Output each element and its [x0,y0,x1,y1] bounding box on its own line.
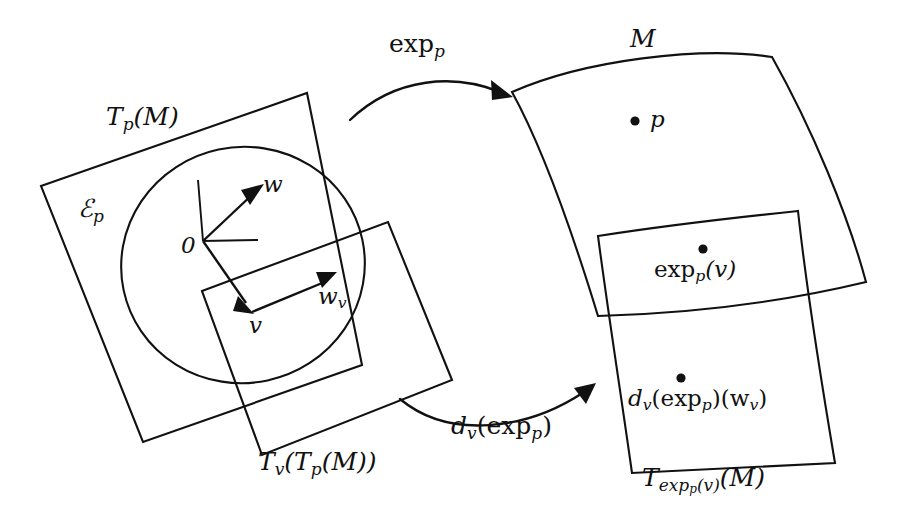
imgvec-mid2: )(w [712,385,750,411]
differential-arrowhead [574,383,596,404]
tpe-sub-tail: (v) [697,475,720,495]
tangent-plane-exp-shape [598,211,835,473]
imgvec-sub3: v [750,395,759,414]
imgvec-base: d [628,385,643,411]
epsilon-p-base: ℰ [78,194,93,223]
label-point-p: p [650,108,665,131]
exp-map-arrow-shaft [350,81,500,120]
tot-mid: (T [284,447,310,476]
tot-base: T [258,447,275,476]
tpe-sub-exp: exp [659,475,690,495]
axis-vertical [198,180,203,241]
imgvec-mid: (exp [652,385,702,411]
axis-horizontal [203,240,258,241]
point-exp-p-v-dot [698,244,707,253]
diff-sub2: p [531,423,542,443]
vector-v-shaft [203,241,246,303]
diff-base: d [451,411,467,440]
figure-canvas: Tp(M) ℰp 0 w v wv Tv(Tp(M)) M p expp dv(… [0,0,910,530]
point-dv-exp-p-wv-dot [676,373,685,382]
tot-tail: (M)) [322,447,377,476]
tangent-plane-p-shape [41,93,362,442]
diff-tail: ) [542,411,552,440]
imgpt-tail: (v) [705,256,736,282]
label-vector-wv: wv [318,285,347,308]
vector-wv-base: w [318,283,338,309]
label-origin: 0 [181,234,196,257]
imgvec-tail: ) [758,385,767,411]
imgpt-sub: p [695,266,705,285]
diff-sub: v [467,423,477,443]
tangent-of-tangent-shape [202,222,452,455]
label-tangent-plane-exp: Texpp(v)(M) [642,465,765,490]
label-vector-w: w [263,173,283,196]
tangent-plane-p-base: T [106,102,123,131]
label-vector-v: v [249,314,262,337]
tangent-plane-p-arg: (M) [134,102,179,131]
imgvec-sub2: p [702,395,712,414]
label-image-point: expp(v) [654,258,736,281]
tpe-base: T [642,463,659,492]
epsilon-p-ellipse [99,124,387,406]
exp-map-sub: p [434,41,445,61]
tpe-sub-sub: p [689,482,697,496]
label-differential: dv(expp) [451,413,552,438]
label-epsilon-p: ℰp [78,196,104,221]
epsilon-p-sub: p [93,206,104,226]
label-image-vector: dv(expp)(wv) [628,387,767,410]
imgvec-sub: v [643,395,652,414]
tpe-tail: (M) [720,463,765,492]
exp-map-base: exp [389,29,434,58]
diff-mid: (exp [477,411,532,440]
label-manifold: M [630,26,656,51]
exp-map-arrowhead [491,80,513,100]
label-exp-map: expp [389,31,445,56]
imgpt-base: exp [654,256,695,282]
tot-sub: v [275,459,285,479]
label-tangent-plane-p: Tp(M) [106,104,179,129]
vector-wv-sub: v [338,293,347,312]
label-tangent-of-tangent: Tv(Tp(M)) [258,449,376,474]
diagram-svg [0,0,910,530]
tot-sub2: p [311,459,322,479]
point-p-dot [630,116,639,125]
vector-wv-shaft [252,281,327,312]
tangent-plane-p-sub: p [123,114,134,134]
